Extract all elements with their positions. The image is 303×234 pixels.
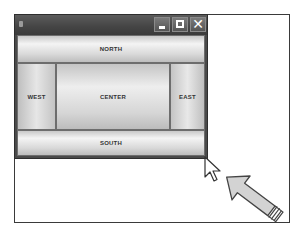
border-layout-content: NORTH WEST CENTER EAST SOUTH [17, 35, 205, 156]
west-button[interactable]: WEST [17, 63, 56, 130]
east-button[interactable]: EAST [170, 63, 205, 130]
close-button[interactable]: ✕ [190, 17, 206, 32]
maximize-icon [176, 20, 184, 28]
close-icon: ✕ [191, 16, 205, 32]
minimize-icon [159, 26, 165, 29]
center-button[interactable]: CENTER [56, 63, 170, 130]
south-button[interactable]: SOUTH [17, 130, 205, 156]
maximize-button[interactable] [172, 17, 188, 32]
app-icon [19, 21, 23, 27]
title-bar[interactable]: ✕ [15, 15, 207, 35]
app-window: ✕ NORTH WEST CENTER EAST SOUTH [14, 14, 208, 159]
resize-hint-arrow-icon [218, 170, 288, 225]
minimize-button[interactable] [154, 17, 170, 32]
north-button[interactable]: NORTH [17, 35, 205, 63]
